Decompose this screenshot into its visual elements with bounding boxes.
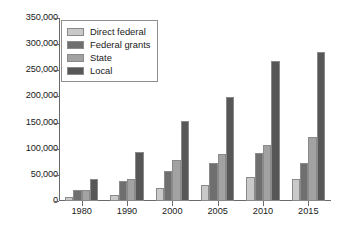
x-axis-tick-mark [308, 201, 309, 206]
chart-legend: Direct federalFederal grantsStateLocal [61, 20, 158, 82]
bar [255, 153, 263, 201]
legend-item: State [67, 51, 150, 64]
bar [263, 145, 271, 201]
y-axis-tick-label: 50,000 [2, 170, 58, 179]
legend-swatch-icon [67, 54, 84, 62]
x-axis-tick-mark [127, 201, 128, 206]
x-axis-tick-mark [172, 201, 173, 206]
legend-item-label: Local [90, 66, 112, 75]
bar [209, 163, 217, 201]
bar [246, 177, 254, 201]
bar [201, 185, 209, 201]
y-axis-tick-label: 150,000 [2, 118, 58, 127]
bar [82, 190, 90, 202]
bar [226, 97, 234, 201]
x-axis-tick-label: 1980 [57, 207, 107, 216]
bar [271, 61, 279, 201]
x-axis-tick-label: 2010 [238, 207, 288, 216]
x-axis-tick-label: 2005 [193, 207, 243, 216]
bar [135, 152, 143, 201]
bar [110, 195, 118, 201]
legend-item: Local [67, 64, 150, 77]
legend-item-label: State [90, 53, 112, 62]
bar [119, 181, 127, 201]
y-axis-tick-label: 300,000 [2, 39, 58, 48]
bar [292, 179, 300, 201]
bar [300, 163, 308, 201]
y-axis-tick-mark [54, 201, 59, 202]
y-axis-tick-label: 250,000 [2, 65, 58, 74]
legend-item-label: Federal grants [90, 40, 150, 49]
legend-swatch-icon [67, 41, 84, 49]
bar [156, 188, 164, 201]
bar [65, 197, 73, 201]
legend-swatch-icon [67, 67, 84, 75]
x-axis-tick-mark [263, 201, 264, 206]
y-axis-tick-label: 200,000 [2, 91, 58, 100]
bar [127, 179, 135, 201]
bar [90, 179, 98, 201]
legend-item: Direct federal [67, 25, 150, 38]
bar [172, 160, 180, 201]
legend-item-label: Direct federal [90, 27, 146, 36]
bar [218, 154, 226, 201]
x-axis-tick-mark [218, 201, 219, 206]
legend-swatch-icon [67, 28, 84, 36]
x-axis-tick-label: 2000 [147, 207, 197, 216]
bar-chart: 050,000100,000150,000200,000250,000300,0… [0, 0, 344, 241]
y-axis-tick-label: 100,000 [2, 144, 58, 153]
bar [308, 137, 316, 201]
bar [73, 190, 81, 202]
x-axis-tick-label: 1990 [102, 207, 152, 216]
x-axis-tick-label: 2015 [283, 207, 333, 216]
bar [164, 171, 172, 201]
bar [181, 121, 189, 201]
bar [317, 52, 325, 201]
y-axis-tick-label: 0 [2, 196, 58, 205]
legend-item: Federal grants [67, 38, 150, 51]
x-axis-tick-mark [82, 201, 83, 206]
y-axis-tick-label: 350,000 [2, 13, 58, 22]
